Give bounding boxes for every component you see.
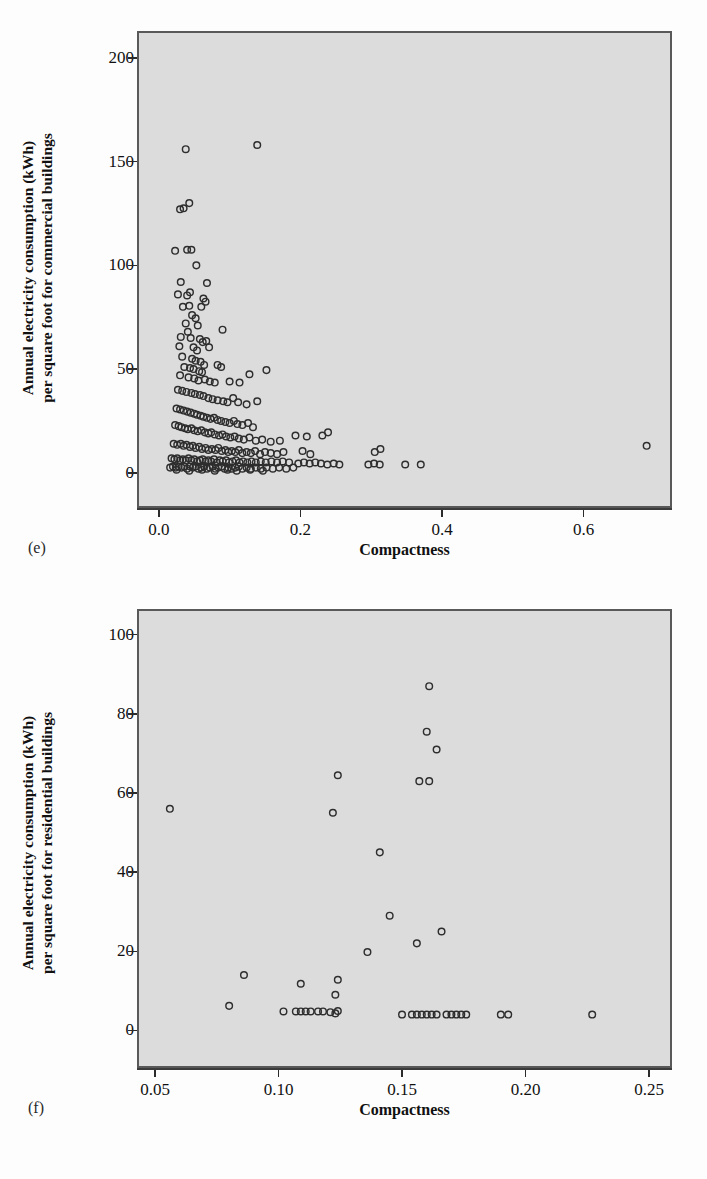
panel-tag-e: (e) — [28, 539, 46, 557]
data-point — [267, 438, 274, 445]
y-tick-mark — [128, 265, 137, 267]
x-tick-label: 0.6 — [573, 520, 594, 540]
scatter-panel-e: Annual electricity consumption (kWh) per… — [0, 18, 707, 578]
data-point — [193, 262, 200, 269]
data-point — [175, 291, 182, 298]
data-point — [283, 465, 290, 472]
data-point — [186, 303, 193, 310]
data-point — [377, 849, 384, 856]
data-point — [277, 437, 284, 444]
scatter-points-f — [139, 611, 670, 1066]
data-point — [423, 728, 430, 735]
y-tick-mark — [128, 1030, 137, 1032]
data-point — [304, 433, 311, 440]
data-point — [335, 976, 342, 983]
data-point — [498, 1011, 505, 1018]
y-tick-mark — [128, 871, 137, 873]
data-point — [235, 399, 242, 406]
data-point — [226, 1003, 233, 1010]
x-tick-label: 0.2 — [290, 520, 311, 540]
data-point — [332, 991, 339, 998]
y-axis-title-f: Annual electricity consumption (kWh) per… — [18, 628, 56, 1058]
data-point — [194, 322, 201, 329]
x-tick-label: 0.20 — [511, 1080, 541, 1100]
data-point — [243, 401, 250, 408]
data-point — [167, 806, 174, 813]
data-point — [176, 343, 183, 350]
data-point — [236, 379, 243, 386]
y-tick-mark — [128, 634, 137, 636]
figure-page: Annual electricity consumption (kWh) per… — [0, 0, 707, 1179]
y-tick-mark — [128, 713, 137, 715]
data-point — [198, 304, 205, 311]
data-point — [438, 928, 445, 935]
data-point — [186, 200, 193, 207]
data-point — [219, 326, 226, 333]
y-axis-title-line2-e: per square foot for commercial buildings — [37, 48, 56, 488]
data-point — [307, 451, 314, 458]
y-tick-mark — [128, 161, 137, 163]
data-point — [274, 451, 281, 458]
data-point — [364, 949, 371, 956]
data-point — [324, 461, 331, 468]
data-point — [254, 142, 261, 149]
data-point — [416, 778, 423, 785]
y-tick-mark — [128, 472, 137, 474]
data-point — [292, 432, 299, 439]
x-tick-label: 0.10 — [264, 1080, 294, 1100]
data-point — [402, 461, 409, 468]
y-axis-title-line1-e: Annual electricity consumption (kWh) — [19, 141, 36, 395]
data-point — [589, 1011, 596, 1018]
x-axis-line — [137, 508, 672, 510]
page-bleed-text — [30, 0, 680, 12]
data-point — [259, 436, 266, 443]
x-tick-label: 0.15 — [387, 1080, 417, 1100]
data-point — [254, 398, 261, 405]
data-point — [177, 372, 184, 379]
y-axis-title-line1-f: Annual electricity consumption (kWh) — [19, 716, 36, 970]
data-point — [172, 248, 179, 255]
data-point — [643, 443, 650, 450]
data-point — [426, 683, 433, 690]
data-point — [280, 449, 287, 456]
data-point — [226, 378, 233, 385]
data-point — [177, 334, 184, 341]
data-point — [270, 465, 277, 472]
panel-tag-f: (f) — [28, 1099, 44, 1117]
data-point — [325, 429, 332, 436]
y-tick-mark — [128, 792, 137, 794]
data-point — [250, 424, 257, 431]
plot-area-e — [137, 31, 672, 508]
data-point — [241, 972, 248, 979]
data-point — [280, 1008, 287, 1015]
x-tick-label: 0.05 — [140, 1080, 170, 1100]
data-point — [182, 146, 189, 153]
x-axis-title-f: Compactness — [137, 1101, 672, 1119]
data-point — [290, 464, 297, 471]
data-point — [188, 246, 195, 253]
scatter-panel-f: Annual electricity consumption (kWh) per… — [0, 598, 707, 1178]
data-point — [299, 448, 306, 455]
data-point — [297, 980, 304, 987]
data-point — [386, 912, 393, 919]
data-point — [253, 437, 260, 444]
plot-area-f — [137, 609, 672, 1068]
data-point — [179, 353, 186, 360]
data-point — [180, 304, 187, 311]
data-point — [187, 335, 194, 342]
data-point — [263, 367, 270, 374]
data-point — [330, 809, 337, 816]
y-tick-mark — [128, 57, 137, 59]
x-tick-label: 0.25 — [634, 1080, 664, 1100]
x-tick-label: 0.4 — [431, 520, 452, 540]
x-axis-line — [137, 1068, 672, 1070]
y-tick-mark — [128, 951, 137, 953]
data-point — [177, 279, 184, 286]
data-point — [505, 1011, 512, 1018]
data-point — [206, 344, 213, 351]
data-point — [399, 1011, 406, 1018]
y-axis-title-e: Annual electricity consumption (kWh) per… — [18, 48, 56, 488]
data-point — [417, 461, 424, 468]
data-point — [426, 778, 433, 785]
data-point — [246, 371, 253, 378]
